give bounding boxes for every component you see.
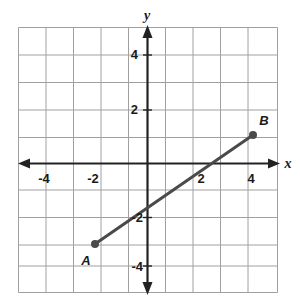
point-a-marker[interactable] (91, 240, 99, 248)
point-b-label: B (259, 113, 268, 128)
x-tick-label-2: 2 (197, 171, 204, 186)
x-axis-label: x (284, 156, 292, 171)
figure-background (0, 0, 300, 306)
coordinate-plane-figure: -4 -2 2 4 4 2 -2 -4 x y A B (0, 0, 300, 306)
point-b-marker[interactable] (249, 131, 257, 139)
point-a-label: A (80, 253, 90, 268)
y-tick-label-neg4: -4 (131, 259, 143, 274)
y-axis-label: y (142, 8, 151, 23)
coordinate-plane-svg: -4 -2 2 4 4 2 -2 -4 x y A B (0, 0, 300, 306)
x-tick-label-neg4: -4 (38, 171, 50, 186)
y-tick-label-2: 2 (131, 102, 138, 117)
x-tick-label-neg2: -2 (87, 171, 99, 186)
y-tick-label-neg2: -2 (131, 210, 143, 225)
y-tick-label-4: 4 (131, 47, 139, 62)
x-tick-label-4: 4 (247, 171, 255, 186)
